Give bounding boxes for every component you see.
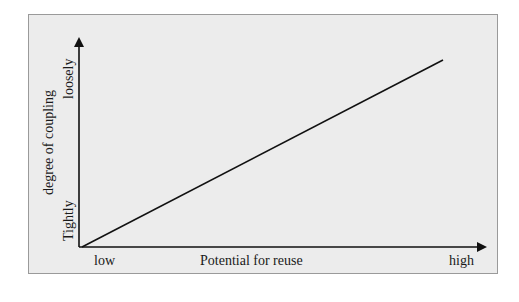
y-axis-high-label: loosely — [61, 59, 76, 99]
y-axis-arrow-icon — [74, 37, 84, 47]
y-axis-title: degree of coupling — [41, 90, 56, 195]
x-axis-arrow-icon — [477, 242, 487, 252]
y-axis-low-label: Tightly — [61, 200, 76, 241]
x-axis-title: Potential for reuse — [200, 253, 303, 268]
diagram-canvas: low Potential for reuse high Tightly loo… — [0, 0, 519, 302]
x-axis-high-label: high — [449, 253, 474, 268]
x-axis-low-label: low — [94, 253, 116, 268]
relationship-line — [82, 60, 443, 247]
